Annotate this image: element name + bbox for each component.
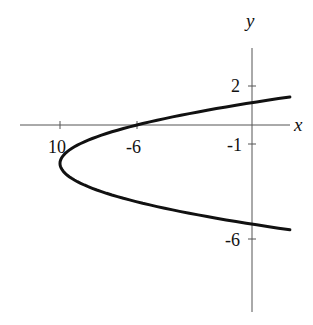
parabola-curve bbox=[60, 97, 290, 230]
y-tick-label-neg6: -6 bbox=[225, 230, 240, 250]
y-axis-label: y bbox=[244, 10, 255, 31]
y-tick-label-neg1: -1 bbox=[227, 135, 242, 155]
y-tick-label-2: 2 bbox=[231, 76, 240, 96]
x-axis-label: x bbox=[293, 114, 303, 135]
x-tick-label-neg6: -6 bbox=[126, 137, 141, 157]
parabola-chart: 10 -6 2 -1 -6 x y bbox=[0, 0, 313, 325]
